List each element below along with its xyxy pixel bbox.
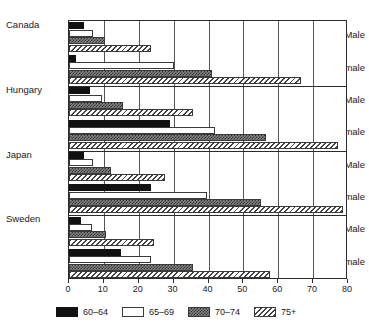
bar-sweden-female-7074 [69,264,193,271]
group-separator-sweden [69,215,346,216]
bar-sweden-male-75+ [69,239,154,246]
x-tick-label-0: 0 [56,284,80,295]
bar-japan-male-75+ [69,174,165,181]
x-tick-label-70: 70 [300,284,324,295]
gridline-70 [313,21,314,278]
bar-canada-male-6064 [69,22,84,29]
chart-legend: 60–6465–6970–7475+ [56,307,356,317]
x-tick-label-40: 40 [196,284,220,295]
bar-japan-male-6569 [69,159,93,166]
x-tick-label-30: 30 [161,284,185,295]
x-tick-mark-50 [242,279,243,283]
bar-japan-male-6064 [69,152,84,159]
gridline-60 [278,21,279,278]
bar-sweden-female-6569 [69,256,151,263]
legend-item-2[interactable]: 65–69 [122,307,174,317]
x-tick-mark-30 [173,279,174,283]
x-tick-mark-20 [138,279,139,283]
gridline-30 [174,21,175,278]
legend-item-4[interactable]: 75+ [254,307,296,317]
legend-label-3: 70–74 [215,307,240,317]
grouped-bar-chart: CanadaMaleFemaleHungaryMaleFemaleJapanMa… [0,0,369,334]
x-tick-mark-70 [312,279,313,283]
bar-canada-female-6569 [69,62,174,69]
bar-japan-female-75+ [69,206,343,213]
x-tick-label-60: 60 [265,284,289,295]
bar-canada-male-6569 [69,30,93,37]
bar-sweden-male-6569 [69,224,92,231]
bar-hungary-female-6569 [69,127,215,134]
plot-area [68,20,347,279]
legend-label-4: 75+ [281,307,296,317]
country-label-canada: Canada [6,19,39,30]
gridline-40 [209,21,210,278]
bar-hungary-female-75+ [69,142,338,149]
gridline-50 [243,21,244,278]
bar-japan-female-7074 [69,199,261,206]
legend-swatch-icon-4 [254,307,276,317]
x-tick-label-50: 50 [230,284,254,295]
bar-sweden-female-6064 [69,249,121,256]
x-tick-mark-80 [347,279,348,283]
legend-item-1[interactable]: 60–64 [56,307,108,317]
group-separator-hungary [69,86,346,87]
group-separator-japan [69,151,346,152]
x-tick-label-20: 20 [126,284,150,295]
country-label-sweden: Sweden [6,213,40,224]
bar-canada-female-7074 [69,70,212,77]
bar-sweden-male-6064 [69,217,81,224]
bar-hungary-female-7074 [69,134,266,141]
bar-hungary-male-75+ [69,109,193,116]
bar-hungary-male-6064 [69,87,90,94]
bar-japan-male-7074 [69,167,111,174]
legend-item-3[interactable]: 70–74 [188,307,240,317]
bar-canada-female-75+ [69,77,301,84]
bar-japan-female-6569 [69,192,207,199]
x-tick-label-10: 10 [91,284,115,295]
legend-swatch-icon-3 [188,307,210,317]
bar-hungary-female-6064 [69,120,170,127]
x-tick-mark-0 [68,279,69,283]
bar-hungary-male-7074 [69,102,123,109]
legend-swatch-icon-1 [56,307,78,317]
x-tick-mark-40 [208,279,209,283]
country-label-hungary: Hungary [6,84,42,95]
bar-sweden-female-75+ [69,271,270,278]
x-tick-label-80: 80 [335,284,359,295]
legend-swatch-icon-2 [122,307,144,317]
x-tick-mark-60 [277,279,278,283]
bar-canada-male-75+ [69,45,151,52]
x-tick-mark-10 [103,279,104,283]
legend-label-2: 65–69 [149,307,174,317]
bar-hungary-male-6569 [69,95,102,102]
bar-sweden-male-7074 [69,231,106,238]
country-label-japan: Japan [6,149,32,160]
legend-label-1: 60–64 [83,307,108,317]
bar-canada-female-6064 [69,55,76,62]
bar-japan-female-6064 [69,184,151,191]
bar-canada-male-7074 [69,37,105,44]
